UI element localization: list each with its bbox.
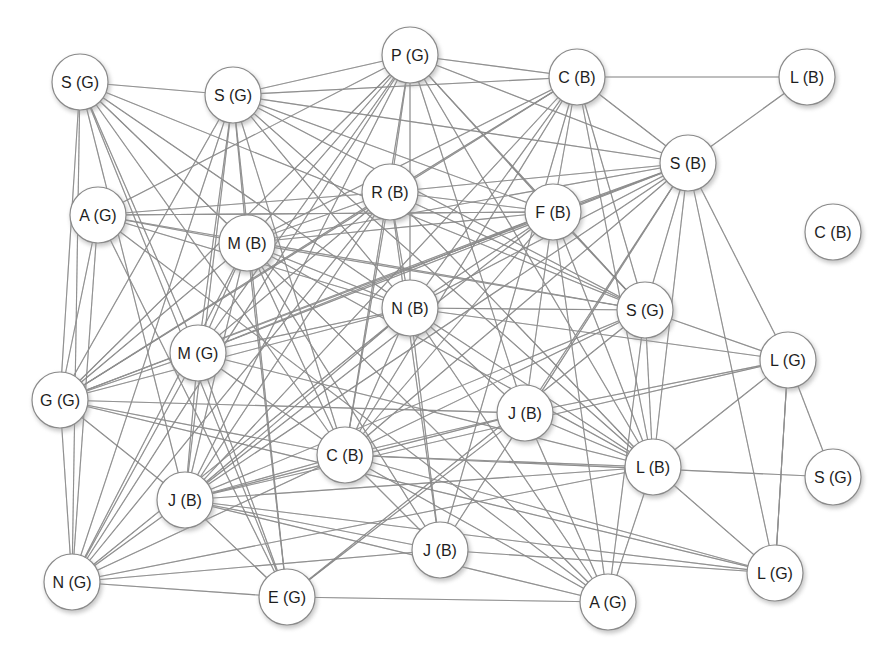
graph-node[interactable]: L (G) — [760, 332, 819, 392]
graph-node[interactable]: P (G) — [382, 27, 441, 87]
edge-highlight — [440, 550, 775, 573]
graph-node[interactable]: S (G) — [617, 282, 676, 342]
graph-node[interactable]: M (G) — [170, 325, 229, 385]
graph-node[interactable]: M (B) — [219, 215, 278, 275]
graph-node[interactable]: C (B) — [549, 49, 608, 109]
node-label: J (B) — [423, 542, 457, 559]
edge-highlight — [775, 360, 788, 573]
graph-node[interactable]: A (G) — [580, 574, 639, 634]
network-graph: S (G)S (G)P (G)C (B)L (B)S (B)R (B)F (B)… — [0, 0, 893, 660]
edge-highlight — [72, 353, 198, 582]
graph-node[interactable]: S (G) — [205, 67, 264, 127]
node-label: C (B) — [558, 69, 595, 86]
graph-node[interactable]: A (G) — [70, 187, 129, 247]
edge-highlight — [525, 360, 788, 413]
graph-node[interactable]: J (B) — [497, 385, 556, 445]
node-label: J (B) — [168, 492, 202, 509]
graph-node[interactable]: R (B) — [362, 164, 421, 224]
node-label: A (G) — [79, 207, 116, 224]
edge-highlight — [80, 82, 185, 500]
node-label: S (G) — [61, 74, 99, 91]
graph-node[interactable]: S (B) — [660, 135, 719, 195]
node-label: E (G) — [268, 589, 306, 606]
edge-highlight — [72, 467, 653, 582]
node-label: A (G) — [589, 594, 626, 611]
node-label: N (G) — [52, 574, 91, 591]
edge-highlight — [72, 82, 80, 582]
edge-highlight — [72, 550, 440, 582]
edge-highlight — [345, 455, 775, 573]
graph-node[interactable]: L (B) — [625, 439, 684, 499]
graph-node[interactable]: J (B) — [412, 522, 471, 582]
graph-node[interactable]: S (G) — [52, 54, 111, 114]
node-label: R (B) — [371, 184, 408, 201]
edge-highlight — [72, 582, 287, 597]
edge-highlight — [233, 95, 688, 163]
edge-highlight — [185, 500, 440, 550]
node-label: C (B) — [814, 224, 851, 241]
graph-node[interactable]: L (B) — [779, 49, 838, 109]
node-label: L (G) — [757, 565, 793, 582]
node-label: J (B) — [508, 405, 542, 422]
edge-highlight — [390, 192, 440, 550]
node-label: S (G) — [814, 469, 852, 486]
node-label: L (B) — [790, 69, 824, 86]
node-label: M (G) — [178, 345, 219, 362]
graph-node[interactable]: E (G) — [259, 569, 318, 629]
edge-highlight — [410, 308, 788, 360]
node-label: L (G) — [770, 352, 806, 369]
node-label: G (G) — [40, 392, 80, 409]
edge-highlight — [345, 455, 833, 477]
edge-highlight — [410, 308, 645, 310]
graph-node[interactable]: F (B) — [525, 184, 584, 244]
node-label: S (B) — [670, 155, 706, 172]
node-label: N (B) — [391, 300, 428, 317]
node-label: P (G) — [391, 47, 429, 64]
edge-highlight — [287, 597, 608, 602]
edge-highlight — [577, 77, 653, 467]
node-label: M (B) — [227, 235, 266, 252]
edge-highlight — [72, 243, 247, 582]
node-label: C (B) — [326, 447, 363, 464]
graph-node[interactable]: S (G) — [805, 449, 864, 509]
edge-highlight — [577, 77, 645, 310]
edge-highlight — [185, 500, 608, 602]
graph-node[interactable]: N (G) — [44, 554, 103, 614]
node-label: F (B) — [535, 204, 571, 221]
graph-node[interactable]: L (G) — [747, 545, 806, 605]
edge-highlight — [345, 455, 608, 602]
node-label: L (B) — [636, 459, 670, 476]
graph-node[interactable]: G (G) — [32, 372, 91, 432]
node-label: S (G) — [214, 87, 252, 104]
edge-highlight — [440, 77, 577, 550]
graph-node[interactable]: N (B) — [382, 280, 441, 340]
node-label: S (G) — [626, 302, 664, 319]
graph-node[interactable]: C (B) — [805, 204, 864, 264]
